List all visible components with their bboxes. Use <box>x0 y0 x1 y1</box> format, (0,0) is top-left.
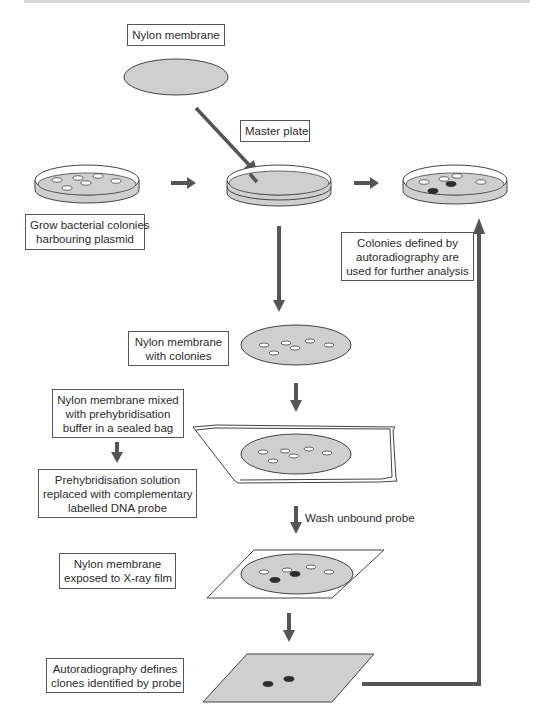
label-text-line: Colonies defined by <box>346 236 469 250</box>
label-text-line: Nylon membrane <box>64 557 171 571</box>
label-colonies-defined: Colonies defined by autoradiography are … <box>341 232 474 281</box>
label-text: Master plate <box>245 124 305 138</box>
label-text-line: Autoradiography defines <box>51 662 179 676</box>
label-text-line: replaced with complementary <box>43 487 192 501</box>
sealed-bag <box>193 425 397 483</box>
diagonal-arrow <box>196 108 258 176</box>
label-text-line: Prehybridisation solution <box>43 473 192 487</box>
label-grow-colonies: Grow bacterial colonies harbouring plasm… <box>25 214 145 250</box>
arrow-down-wash <box>290 506 302 534</box>
label-master-plate: Master plate <box>240 120 310 142</box>
label-nylon-membrane: Nylon membrane <box>127 24 225 46</box>
xray-film <box>207 550 384 598</box>
nylon-membrane-disc <box>124 59 228 95</box>
arrow-down-1 <box>273 226 285 312</box>
label-text-line: labelled DNA probe <box>43 501 192 515</box>
membrane-with-colonies-disc <box>241 325 351 365</box>
label-text-line: exposed to X-ray film <box>64 571 171 585</box>
petri-dish-right <box>403 165 507 204</box>
label-text-line: with prehybridisation <box>57 407 179 421</box>
label-text-line: harbouring plasmid <box>30 232 140 246</box>
arrow-down-4 <box>283 613 295 642</box>
label-prehyb-replaced: Prehybridisation solution replaced with … <box>38 469 197 518</box>
arrow-to-master-plate <box>171 177 196 189</box>
label-text-line: used for further analysis <box>346 264 469 278</box>
label-text-line: Grow bacterial colonies <box>30 218 140 232</box>
label-text-line: buffer in a sealed bag <box>57 421 179 435</box>
arrow-down-2 <box>290 383 302 412</box>
label-wash-unbound: Wash unbound probe <box>305 512 415 524</box>
label-text-line: autoradiography are <box>346 250 469 264</box>
label-text: Nylon membrane <box>132 28 220 42</box>
label-text-line: Nylon membrane <box>133 335 224 349</box>
autoradiograph-film <box>203 654 374 702</box>
label-membrane-mixed: Nylon membrane mixed with prehybridisati… <box>52 389 184 438</box>
label-text-line: Nylon membrane mixed <box>57 393 179 407</box>
petri-dish-left <box>35 165 139 203</box>
diagram-canvas <box>0 0 556 717</box>
label-membrane-with-colonies: Nylon membrane with colonies <box>128 331 229 366</box>
label-membrane-exposed: Nylon membrane exposed to X-ray film <box>59 553 176 589</box>
label-text-line: with colonies <box>133 349 224 363</box>
label-text-line: clones identified by probe <box>51 676 179 690</box>
master-plate-dish <box>227 165 331 206</box>
arrow-down-left <box>111 442 123 463</box>
arrow-to-result-plate <box>354 177 379 189</box>
label-autoradiography-defines: Autoradiography defines clones identifie… <box>46 658 184 693</box>
